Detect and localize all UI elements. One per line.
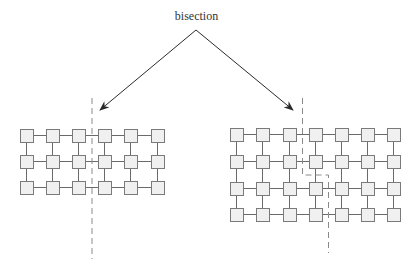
mesh-node (284, 183, 297, 196)
mesh-node (388, 129, 401, 142)
mesh-node (336, 156, 349, 169)
mesh-node (231, 156, 244, 169)
mesh-node (231, 183, 244, 196)
mesh-node (388, 156, 401, 169)
mesh-node (310, 156, 323, 169)
meshes (21, 98, 401, 259)
mesh-node (99, 130, 112, 143)
mesh-node (388, 183, 401, 196)
left-mesh (21, 98, 165, 259)
mesh-node (362, 209, 375, 222)
mesh-node (231, 209, 244, 222)
mesh-node (152, 130, 165, 143)
mesh-node (21, 156, 34, 169)
mesh-node (99, 182, 112, 195)
mesh-node (284, 129, 297, 142)
mesh-node (21, 130, 34, 143)
mesh-node (73, 156, 86, 169)
mesh-node (257, 183, 270, 196)
bisection-cut-line (303, 98, 329, 253)
diagram-title: bisection (175, 9, 218, 23)
mesh-node (336, 129, 349, 142)
mesh-node (152, 182, 165, 195)
mesh-node (362, 129, 375, 142)
mesh-node (73, 130, 86, 143)
mesh-node (47, 182, 60, 195)
mesh-node (284, 209, 297, 222)
mesh-node (336, 183, 349, 196)
mesh-node (362, 156, 375, 169)
mesh-node (284, 156, 297, 169)
mesh-node (310, 209, 323, 222)
mesh-node (47, 156, 60, 169)
mesh-node (21, 182, 34, 195)
mesh-node (47, 130, 60, 143)
mesh-node (99, 156, 112, 169)
mesh-node (73, 182, 86, 195)
mesh-node (125, 182, 138, 195)
mesh-node (152, 156, 165, 169)
bisection-diagram: bisection (0, 0, 420, 266)
mesh-edges (237, 135, 394, 215)
mesh-node (125, 156, 138, 169)
mesh-node (310, 129, 323, 142)
right-mesh (231, 98, 401, 253)
mesh-node (388, 209, 401, 222)
mesh-node (310, 183, 323, 196)
arrows (100, 30, 293, 110)
mesh-node (257, 156, 270, 169)
mesh-node (362, 183, 375, 196)
mesh-node (257, 129, 270, 142)
arrow-left (100, 30, 196, 110)
arrow-right (196, 30, 293, 110)
mesh-node (257, 209, 270, 222)
mesh-node (231, 129, 244, 142)
mesh-node (125, 130, 138, 143)
mesh-node (336, 209, 349, 222)
